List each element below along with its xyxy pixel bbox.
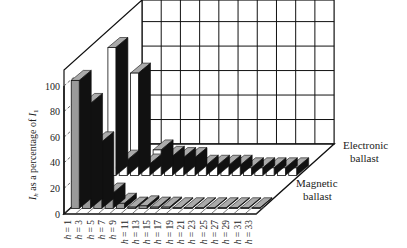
y-axis: 020406080100 xyxy=(45,81,64,220)
back-wall-grid xyxy=(142,0,334,144)
legend-electronic-line2: ballast xyxy=(350,152,379,164)
x-tick-label: h = 29 xyxy=(221,220,231,245)
y-axis-label: Ih as a percentage of I1 xyxy=(27,109,40,201)
x-tick-label: h = 25 xyxy=(199,220,209,245)
x-tick-label: h = 3 xyxy=(74,220,84,240)
x-tick-label: h = 15 xyxy=(142,220,152,245)
x-tick-label: h = 9 xyxy=(108,220,118,240)
legend-electronic-line1: Electronic xyxy=(343,139,388,151)
x-tick-label: h = 5 xyxy=(86,220,96,240)
legend-magnetic-line2: ballast xyxy=(303,190,332,202)
harmonic-3d-bar-chart: 020406080100 h = 1h = 3h = 5h = 7h = 9h … xyxy=(0,0,407,248)
x-tick-label: h = 33 xyxy=(244,220,254,245)
x-tick-label: h = 19 xyxy=(165,220,175,245)
x-tick-label: h = 17 xyxy=(153,220,163,245)
y-tick-label: 0 xyxy=(55,209,60,220)
x-tick-label: h = 7 xyxy=(97,220,107,240)
y-tick-label: 80 xyxy=(50,106,60,117)
x-tick-label: h = 31 xyxy=(233,220,243,245)
x-tick-label: h = 23 xyxy=(187,220,197,245)
y-tick-label: 40 xyxy=(50,157,60,168)
x-tick-label: h = 13 xyxy=(131,220,141,245)
x-tick-label: h = 27 xyxy=(210,220,220,245)
y-tick-label: 60 xyxy=(50,132,60,143)
x-axis: h = 1h = 3h = 5h = 7h = 9h = 11h = 13h =… xyxy=(63,220,254,245)
y-tick-label: 20 xyxy=(50,183,60,194)
y-tick-label: 100 xyxy=(45,81,60,92)
x-tick-label: h = 1 xyxy=(63,220,73,240)
x-tick-label: h = 21 xyxy=(176,220,186,245)
x-tick-label: h = 11 xyxy=(120,220,130,244)
legend-magnetic-line1: Magnetic xyxy=(296,177,338,189)
